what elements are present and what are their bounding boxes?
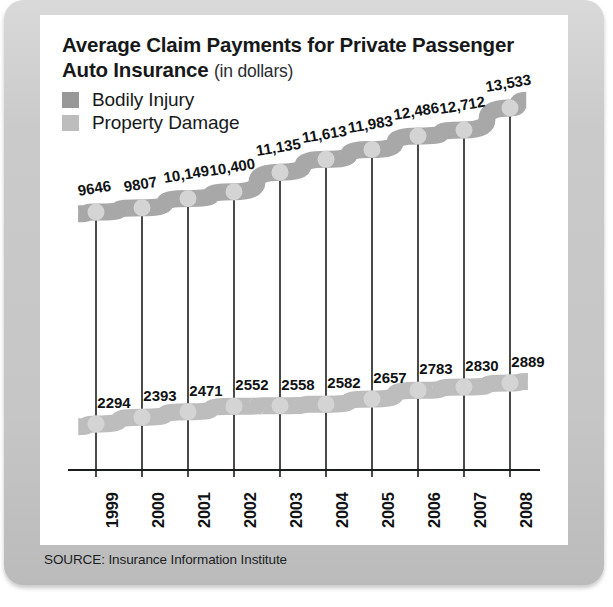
- x-axis-label-2008: 2008: [517, 492, 536, 528]
- x-axis-label-2004: 2004: [333, 492, 352, 528]
- value-label-property-damage: 2657: [373, 369, 406, 386]
- value-label-property-damage: 2889: [511, 353, 544, 370]
- value-label-property-damage: 2558: [281, 376, 314, 393]
- chart-plot-area: 9646980710,14910,40011,13511,61311,98312…: [40, 15, 568, 545]
- x-axis-label-2002: 2002: [241, 492, 260, 528]
- x-axis-label-2007: 2007: [471, 492, 490, 528]
- value-label-property-damage: 2582: [327, 374, 360, 391]
- x-axis-label-2000: 2000: [149, 492, 168, 528]
- chart-card: Average Claim Payments for Private Passe…: [40, 15, 568, 545]
- x-axis-label-2003: 2003: [287, 492, 306, 528]
- source-note: SOURCE: Insurance Information Institute: [44, 552, 287, 567]
- value-label-property-damage: 2294: [97, 394, 130, 411]
- infographic-panel: Average Claim Payments for Private Passe…: [4, 0, 604, 585]
- x-axis-label-1999: 1999: [103, 492, 122, 528]
- ribbon-bodily-injury: [78, 100, 526, 213]
- value-label-property-damage: 2471: [189, 382, 222, 399]
- value-label-property-damage: 2393: [143, 387, 176, 404]
- value-label-property-damage: 2783: [419, 360, 452, 377]
- value-label-property-damage: 2552: [235, 376, 268, 393]
- x-axis-label-2006: 2006: [425, 492, 444, 528]
- value-label-property-damage: 2830: [465, 357, 498, 374]
- x-axis-label-2005: 2005: [379, 492, 398, 528]
- x-axis-label-2001: 2001: [195, 492, 214, 528]
- x-axis: [68, 470, 540, 477]
